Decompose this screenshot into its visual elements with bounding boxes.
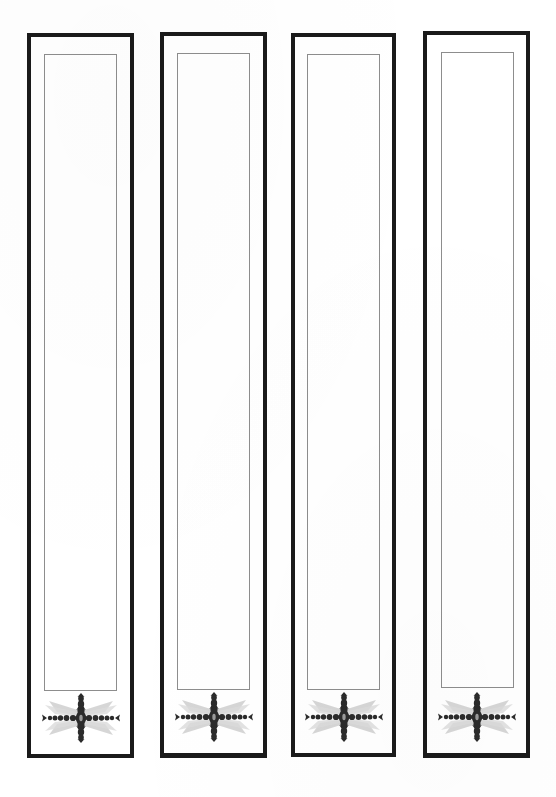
ornate-cross-ornament [298, 690, 390, 744]
panel-1[interactable] [27, 33, 134, 758]
panel-2-inner-rect [177, 53, 250, 690]
panel-1-inner-rect [44, 54, 117, 691]
panel-4-inner-rect [441, 52, 514, 688]
ornate-cross-ornament [431, 690, 523, 744]
panel-3-inner-rect [307, 54, 380, 690]
panel-3-ornament-slot [295, 689, 392, 745]
panel-4-ornament-slot [427, 689, 526, 745]
panel-3[interactable] [291, 33, 396, 757]
panel-1-ornament-slot [31, 690, 130, 746]
ornate-cross-ornament [168, 690, 260, 744]
panel-2-ornament-slot [164, 689, 263, 745]
panel-2[interactable] [160, 32, 267, 758]
panel-4[interactable] [423, 31, 530, 758]
ornate-cross-ornament [35, 691, 127, 745]
template-sheet [0, 0, 556, 797]
